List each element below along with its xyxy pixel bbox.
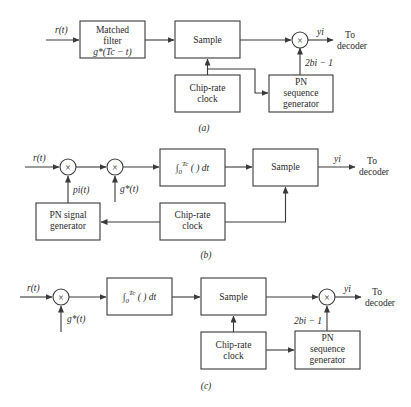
- svg-text:Chip-rate: Chip-rate: [190, 83, 226, 93]
- dest-label-2: decoder: [365, 298, 396, 308]
- output-label: yi: [343, 284, 351, 294]
- svg-text:clock: clock: [197, 94, 218, 104]
- svg-text:PN: PN: [295, 77, 307, 87]
- input-label: r(t): [33, 153, 46, 164]
- svg-text:Matched: Matched: [96, 25, 129, 35]
- pn-output-label: 2bi − 1: [305, 58, 333, 68]
- svg-text:Sample: Sample: [219, 292, 248, 302]
- g-label: g*(t): [120, 184, 138, 195]
- panel-c: r(t) × g*(t) ∫0Tc ( ) dt ∫₀^Tc ( ) dt Sa…: [20, 278, 396, 392]
- svg-text:Sample: Sample: [193, 35, 222, 45]
- dest-label-2: decoder: [337, 41, 368, 51]
- svg-text:Chip-rate: Chip-rate: [216, 340, 252, 350]
- multiplier-icon: ×: [53, 289, 69, 305]
- dest-label-2: decoder: [359, 167, 390, 177]
- svg-text:sequence: sequence: [284, 88, 319, 98]
- pn-sequence-generator-block: PN sequence generator: [269, 75, 333, 112]
- panel-a: r(t) Matched filter g*(Tc − t) Sample Ch…: [46, 21, 368, 134]
- svg-text:Sample: Sample: [271, 162, 300, 172]
- svg-text:sequence: sequence: [310, 344, 345, 354]
- caption-b: (b): [200, 250, 211, 261]
- input-label: r(t): [55, 25, 68, 36]
- output-label: yi: [316, 27, 324, 37]
- svg-text:Chip-rate: Chip-rate: [175, 210, 211, 220]
- caption-a: (a): [198, 123, 209, 134]
- svg-text:×: ×: [324, 293, 329, 303]
- svg-text:PN signal: PN signal: [49, 210, 87, 220]
- chip-rate-clock-block: Chip-rate clock: [160, 203, 225, 240]
- svg-text:×: ×: [65, 163, 70, 173]
- clock-to-sample-arrow: [225, 187, 286, 222]
- svg-text:clock: clock: [223, 351, 244, 361]
- svg-text:generator: generator: [283, 99, 320, 109]
- svg-text:generator: generator: [50, 221, 87, 231]
- sample-block: Sample: [253, 149, 318, 186]
- svg-text:generator: generator: [310, 355, 347, 365]
- pn-output-label: 2bi − 1: [294, 316, 322, 326]
- multiplier-2-icon: ×: [107, 159, 123, 175]
- output-label: yi: [333, 154, 341, 164]
- multiplier-1-icon: ×: [60, 159, 76, 175]
- dest-label-1: To: [372, 287, 382, 297]
- svg-text:×: ×: [58, 293, 63, 303]
- panel-b: r(t) × × g*(t) ∫0Tc ( ) dt ∫₀^Tc ( ) dt …: [25, 149, 390, 261]
- sample-block: Sample: [175, 21, 240, 58]
- svg-text:clock: clock: [182, 221, 203, 231]
- caption-c: (c): [201, 381, 212, 392]
- sample-block: Sample: [201, 278, 266, 315]
- receiver-block-diagrams: r(t) Matched filter g*(Tc − t) Sample Ch…: [0, 0, 411, 407]
- dest-label-1: To: [367, 156, 377, 166]
- input-label: r(t): [27, 283, 40, 294]
- chip-rate-clock-block: Chip-rate clock: [175, 75, 240, 112]
- pn-signal-generator-block: PN signal generator: [36, 203, 100, 240]
- svg-text:filter: filter: [103, 36, 122, 46]
- chip-rate-clock-block: Chip-rate clock: [201, 332, 266, 369]
- multiplier-2-icon: ×: [319, 289, 335, 305]
- svg-text:×: ×: [112, 163, 117, 173]
- dest-label-1: To: [345, 30, 355, 40]
- matched-filter-block: Matched filter g*(Tc − t): [80, 21, 145, 58]
- pn-sequence-generator-block: PN sequence generator: [295, 331, 360, 369]
- multiplier-icon: ×: [292, 32, 308, 48]
- integrator-block: ∫0Tc ( ) dt ∫₀^Tc ( ) dt: [160, 149, 225, 186]
- svg-text:×: ×: [297, 36, 302, 46]
- svg-text:g*(Tc − t): g*(Tc − t): [93, 47, 131, 58]
- pn-signal-label: pi(t): [72, 185, 89, 196]
- g-label: g*(t): [67, 314, 85, 325]
- svg-text:PN: PN: [321, 333, 333, 343]
- integrator-block: ∫0Tc ( ) dt ∫₀^Tc ( ) dt: [107, 278, 172, 315]
